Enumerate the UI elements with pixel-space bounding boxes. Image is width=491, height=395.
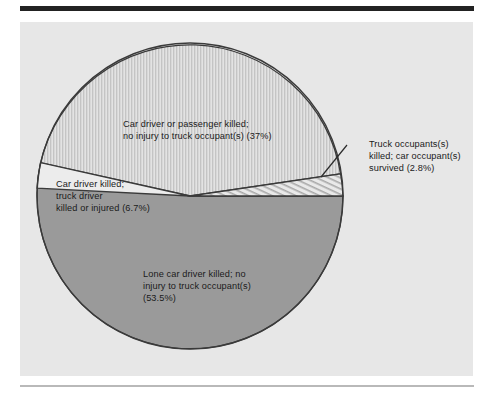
pie-label-lone-car-driver-killed: Lone car driver killed; no injury to tru…: [143, 268, 303, 305]
pie-label-car-driver-or-passenger-killed: Car driver or passenger killed; no injur…: [123, 118, 323, 142]
pie-label-car-driver-killed-truck-driver-injured: Car driver killed; truck driver killed o…: [56, 178, 206, 215]
pie-label-truck-occupants-killed: Truck occupants(s) killed; car occupant(…: [369, 138, 491, 175]
bottom-rule-divider: [20, 385, 474, 387]
top-rule-divider: [20, 6, 474, 11]
figure-container: Car driver or passenger killed; no injur…: [0, 0, 491, 395]
chart-panel: Car driver or passenger killed; no injur…: [20, 22, 473, 376]
